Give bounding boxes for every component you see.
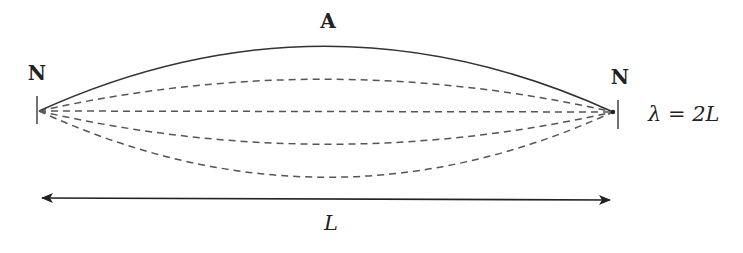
length-arrow <box>42 198 610 200</box>
right-node-dot <box>611 110 615 114</box>
length-label: L <box>323 211 338 235</box>
left-node-label: N <box>28 61 46 85</box>
right-node-label: N <box>611 65 629 89</box>
dashed-upper-curve <box>39 79 613 112</box>
dashed-middle-line <box>39 111 613 112</box>
wavelength-relation: λ = 2L <box>647 102 720 126</box>
dashed-lower-curve <box>39 111 613 144</box>
standing-wave-diagram: N N A L λ = 2L <box>0 0 743 253</box>
antinode-label: A <box>319 9 336 33</box>
